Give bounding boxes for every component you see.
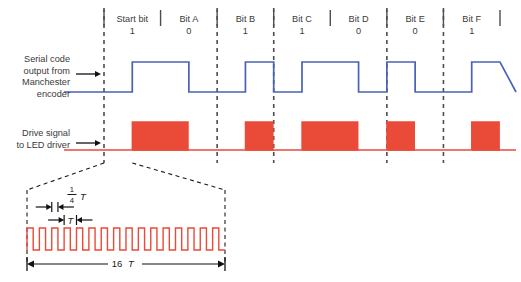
bit-value-6: 0 (413, 26, 418, 36)
timing-diagram-figure: Start bit1Bit A0Bit B1Bit C1Bit D0Bit E0… (0, 0, 521, 282)
total-span-dimension (27, 257, 225, 271)
period-t-dimension-head-r (77, 217, 83, 223)
period-t-dimension-head-l (59, 217, 65, 223)
drive-label-arrow-head (95, 140, 101, 146)
span-count-label: 16 (112, 258, 123, 269)
drive-label-line-1: Drive signal (22, 128, 70, 138)
serial-label-arrow-head (95, 71, 101, 77)
span-arrow-right (218, 261, 225, 268)
leader-right (132, 163, 225, 190)
period-t-symbol: T (67, 215, 74, 226)
drive-burst-1 (132, 122, 189, 150)
bit-label-5: Bit D (349, 14, 369, 24)
quarter-t-dimension-head-r (58, 204, 64, 210)
quarter-t-numerator: 1 (70, 185, 74, 194)
bit-label-7: Bit F (462, 14, 481, 24)
bit-value-4: 1 (299, 26, 304, 36)
drive-burst-2 (245, 122, 273, 150)
serial-code-waveform (64, 62, 516, 92)
quarter-t-denominator: 4 (70, 196, 74, 205)
drive-burst-3 (302, 122, 359, 150)
bit-label-3: Bit B (236, 14, 255, 24)
serial-label-arrow (76, 71, 101, 77)
quarter-t-dimension-head-l (46, 204, 52, 210)
bit-label-4: Bit C (292, 14, 312, 24)
drive-burst-4 (387, 122, 415, 150)
drive-burst-5 (472, 122, 500, 150)
bit-label-2: Bit A (179, 14, 199, 24)
leader-left (27, 163, 104, 190)
bit-value-1: 1 (130, 26, 135, 36)
drive-signal-waveform (64, 122, 516, 150)
drive-label-line-2: to LED driver (16, 140, 70, 150)
timing-diagram-canvas: Start bit1Bit A0Bit B1Bit C1Bit D0Bit E0… (0, 0, 521, 282)
bit-value-7: 1 (469, 26, 474, 36)
quarter-t-symbol: T (80, 191, 87, 202)
drive-label-arrow (76, 140, 101, 146)
bit-value-2: 0 (186, 26, 191, 36)
serial-label-line-1: Serial code (24, 54, 70, 64)
span-symbol-label: T (128, 258, 135, 269)
bit-value-5: 0 (356, 26, 361, 36)
bit-label-1: Start bit (116, 14, 148, 24)
detail-leader-lines (27, 163, 225, 190)
serial-label-line-3: Manchester (22, 77, 70, 87)
detail-pulse-train (27, 228, 225, 250)
bit-label-6: Bit E (405, 14, 424, 24)
serial-label-line-2: output from (24, 66, 71, 76)
bit-value-3: 1 (243, 26, 248, 36)
serial-label-line-4: encoder (37, 89, 70, 99)
span-arrow-left (27, 261, 34, 268)
quarter-t-dimension (36, 202, 74, 212)
